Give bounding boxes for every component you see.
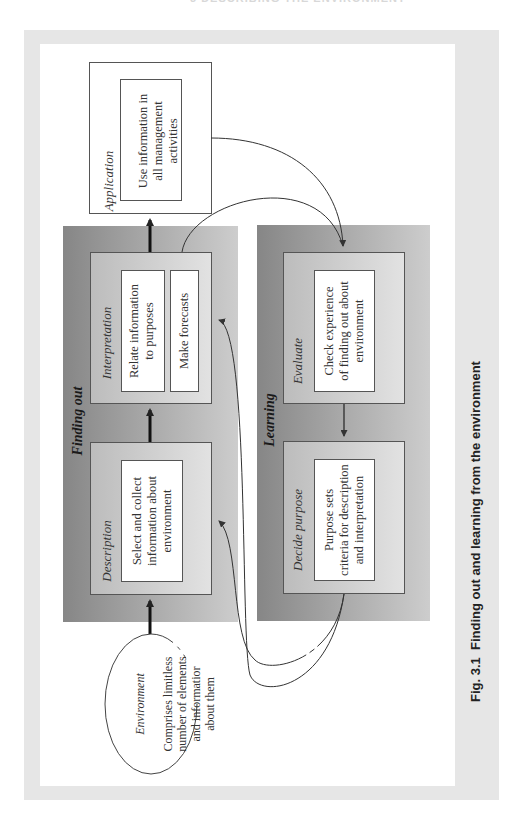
evaluate-text-box: Check experience of finding out about en… xyxy=(314,270,375,392)
description-title: Description xyxy=(99,501,115,601)
relate-information-box: Relate information to purposes xyxy=(121,270,165,392)
description-stage: Select and collect information about env… xyxy=(90,442,212,595)
make-forecasts-text: Make forecasts xyxy=(177,270,193,392)
decide-purpose-stage: Purpose sets criteria for description an… xyxy=(283,441,405,594)
figure-number: Fig. 3.1 xyxy=(468,657,483,702)
page-header: 3 DESCRIBING THE ENVIRONMENT xyxy=(190,0,490,6)
finding-out-label: Finding out xyxy=(70,371,88,471)
interpretation-title: Interpretation xyxy=(99,293,115,393)
figure-caption: Fig. 3.1 Finding out and learning from t… xyxy=(468,422,486,702)
learning-label: Learning xyxy=(262,370,280,470)
evaluate-title: Evaluate xyxy=(290,311,306,411)
application-box: Use information in all management activi… xyxy=(89,62,212,214)
evaluate-body: Check experience of finding out about en… xyxy=(322,270,368,392)
application-body: Use information in all management activi… xyxy=(136,80,168,202)
evaluate-stage: Check experience of finding out about en… xyxy=(283,252,405,404)
application-text-box: Use information in all management activi… xyxy=(120,79,182,201)
environment-body: Comprises limitless number of elements a… xyxy=(161,634,217,774)
decide-purpose-text-box: Purpose sets criteria for description an… xyxy=(314,459,375,581)
description-text-box: Select and collect information about env… xyxy=(121,460,183,582)
interpretation-stage: Relate information to purposes Make fore… xyxy=(90,252,212,404)
application-title: Application xyxy=(101,141,117,221)
relate-information-text: Relate information to purposes xyxy=(127,270,159,392)
figure-title: Finding out and learning from the enviro… xyxy=(468,361,483,650)
decide-purpose-title: Decide purpose xyxy=(290,480,306,580)
environment-title: Environment xyxy=(133,634,147,774)
decide-purpose-body: Purpose sets criteria for description an… xyxy=(322,459,368,581)
make-forecasts-box: Make forecasts xyxy=(170,270,199,392)
description-body: Select and collect information about env… xyxy=(130,460,176,582)
environment-ellipse: Environment Comprises limitless number o… xyxy=(119,634,183,774)
